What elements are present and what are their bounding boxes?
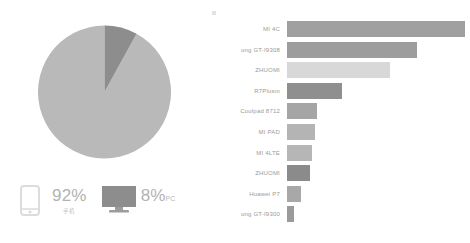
corner-tick-marker <box>212 11 216 15</box>
legend-sublabel-mobile: 手机 <box>52 209 87 215</box>
bar-row-label: ung GT-I9300 <box>205 211 287 217</box>
bar-row-label: ZHUOMI <box>205 67 287 73</box>
legend-percent-pc-value: 8% <box>141 186 166 205</box>
bar-row-label: ZHUOMI <box>205 170 287 176</box>
bar-chart-rows: MI 4Cung GT-I9308ZHUOMIR7PlusmCoolpad 87… <box>205 21 470 227</box>
bar-row-label: MI 4LTE <box>205 150 287 156</box>
bar-row-track <box>287 145 470 161</box>
bar-row-track <box>287 124 470 140</box>
bar-row[interactable]: R7Plusm <box>205 83 470 99</box>
bar-row-label: MI PAD <box>205 129 287 135</box>
bar-row-fill[interactable] <box>287 145 312 161</box>
bar-row[interactable]: ZHUOMI <box>205 62 470 78</box>
bar-row-track <box>287 165 470 181</box>
pie-chart <box>38 18 171 166</box>
bar-row-fill[interactable] <box>287 206 294 222</box>
bar-row-fill[interactable] <box>287 83 342 99</box>
legend-percent-pc-unit: PC <box>166 195 176 202</box>
legend-percent-mobile: 92% <box>52 186 87 205</box>
bar-row[interactable]: MI 4C <box>205 21 470 37</box>
legend-text-mobile: 92% 手机 <box>48 180 87 215</box>
bar-row-fill[interactable] <box>287 124 315 140</box>
bar-row-fill[interactable] <box>287 42 417 58</box>
bar-row[interactable]: ung GT-I9300 <box>205 206 470 222</box>
legend-text-pc: 8%PC <box>137 180 176 205</box>
bar-chart-panel: MI 4Cung GT-I9308ZHUOMIR7PlusmCoolpad 87… <box>205 0 470 243</box>
bar-row-fill[interactable] <box>287 103 317 119</box>
bar-row-label: ung GT-I9308 <box>205 47 287 53</box>
bar-row-label: MI 4C <box>205 26 287 32</box>
pie-legend: 92% 手机 8%PC <box>12 180 192 226</box>
bar-row-track <box>287 206 470 222</box>
bar-row-label: Huawei P7 <box>205 191 287 197</box>
bar-row-track <box>287 83 470 99</box>
pie-chart-svg <box>38 18 171 166</box>
bar-row[interactable]: Coolpad 8712 <box>205 103 470 119</box>
bar-row-track <box>287 186 470 202</box>
mobile-phone-icon <box>12 180 48 220</box>
bar-row-track <box>287 62 470 78</box>
bar-row-track <box>287 42 470 58</box>
bar-row-label: Coolpad 8712 <box>205 108 287 114</box>
bar-row[interactable]: MI 4LTE <box>205 145 470 161</box>
legend-item-pc[interactable]: 8%PC <box>101 180 176 220</box>
desktop-monitor-icon <box>101 180 137 220</box>
dashboard: 92% 手机 8%PC MI 4Cung GT-I93 <box>0 0 470 243</box>
legend-item-mobile[interactable]: 92% 手机 <box>12 180 87 220</box>
bar-row-fill[interactable] <box>287 21 465 37</box>
pie-chart-panel: 92% 手机 8%PC <box>0 0 205 243</box>
bar-row-label: R7Plusm <box>205 88 287 94</box>
legend-percent-pc: 8%PC <box>141 186 176 205</box>
bar-row-fill[interactable] <box>287 62 390 78</box>
bar-row-track <box>287 103 470 119</box>
bar-row[interactable]: MI PAD <box>205 124 470 140</box>
bar-row-track <box>287 21 470 37</box>
bar-row-fill[interactable] <box>287 165 310 181</box>
bar-row[interactable]: ZHUOMI <box>205 165 470 181</box>
bar-row-fill[interactable] <box>287 186 301 202</box>
bar-row[interactable]: ung GT-I9308 <box>205 42 470 58</box>
bar-row[interactable]: Huawei P7 <box>205 186 470 202</box>
